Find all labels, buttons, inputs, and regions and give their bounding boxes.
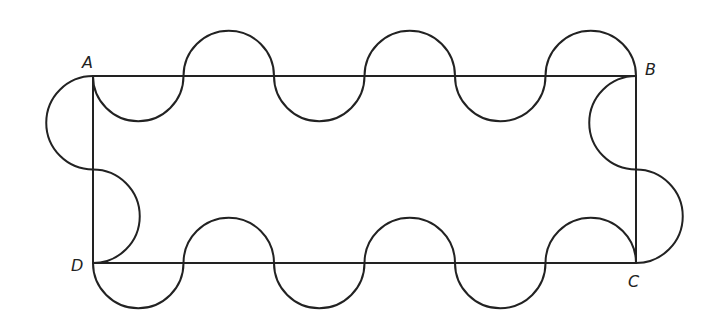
diagram-canvas: A B C D [0, 0, 717, 329]
vertex-label-b: B [645, 60, 656, 79]
vertex-label-a: A [82, 53, 93, 72]
vertex-label-c: C [628, 272, 639, 291]
rectangle-with-semicircles [0, 0, 717, 329]
vertex-label-d: D [71, 256, 83, 275]
